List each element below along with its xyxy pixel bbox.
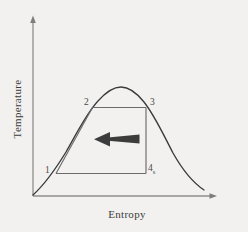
y-axis-arrowhead-icon bbox=[30, 16, 36, 24]
state-label-3-text: 3 bbox=[150, 97, 155, 107]
temperature-entropy-diagram: Temperature Entropy 1 2 3 4s bbox=[0, 0, 248, 232]
y-axis-title: Temperature bbox=[11, 63, 23, 155]
state-label-1: 1 bbox=[45, 166, 50, 176]
arrow-shaft bbox=[108, 135, 140, 144]
plot-canvas bbox=[0, 0, 248, 232]
state-label-4s-subscript: s bbox=[153, 168, 156, 175]
cycle-segment-1-2 bbox=[56, 108, 93, 174]
x-axis-title: Entropy bbox=[72, 208, 182, 220]
state-label-3: 3 bbox=[150, 98, 155, 108]
state-label-2: 2 bbox=[84, 98, 89, 108]
x-axis-arrowhead-icon bbox=[210, 193, 218, 199]
state-label-4s: 4s bbox=[148, 164, 155, 175]
arrow-head-icon bbox=[94, 132, 110, 146]
state-label-1-text: 1 bbox=[45, 165, 50, 175]
state-label-2-text: 2 bbox=[84, 97, 89, 107]
process-direction-arrow bbox=[94, 132, 140, 146]
